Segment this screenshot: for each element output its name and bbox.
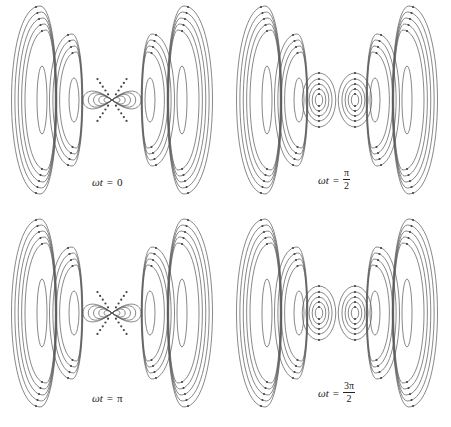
field-direction-arrow-icon <box>118 89 120 91</box>
field-direction-arrow-icon <box>120 112 122 114</box>
near-field-line <box>112 311 120 316</box>
field-direction-arrow-icon <box>185 399 187 401</box>
field-direction-arrow-icon <box>96 291 98 293</box>
field-line <box>250 243 280 383</box>
field-direction-arrow-icon <box>378 253 380 255</box>
field-direction-arrow-icon <box>260 6 262 8</box>
field-direction-arrow-icon <box>125 78 127 80</box>
field-line <box>145 78 155 122</box>
field-direction-arrow-icon <box>380 164 382 166</box>
field-direction-arrow-icon <box>409 231 411 233</box>
field-direction-arrow-icon <box>104 89 106 91</box>
field-line <box>367 52 389 148</box>
field-direction-arrow-icon <box>150 52 152 54</box>
field-line <box>69 78 79 122</box>
closed-field-loop <box>315 94 322 106</box>
field-line <box>69 291 79 335</box>
field-direction-arrow-icon <box>185 12 187 14</box>
equals-sign: = <box>333 387 339 399</box>
field-direction-arrow-icon <box>125 291 127 293</box>
field-direction-arrow-icon <box>68 371 70 373</box>
field-direction-arrow-icon <box>407 174 409 176</box>
field-direction-arrow-icon <box>261 12 263 14</box>
field-direction-arrow-icon <box>70 46 72 48</box>
field-direction-arrow-icon <box>378 371 380 373</box>
near-field-line <box>112 96 125 104</box>
field-direction-arrow-icon <box>107 93 109 95</box>
near-field-line <box>104 311 112 316</box>
omega-t-symbol: ωt <box>318 174 329 186</box>
field-direction-arrow-icon <box>354 83 356 85</box>
omega-t-symbol: ωt <box>92 176 103 188</box>
field-direction-arrow-icon <box>99 82 101 84</box>
field-direction-arrow-icon <box>354 105 356 107</box>
field-direction-arrow-icon <box>407 24 409 26</box>
field-direction-arrow-icon <box>266 30 268 32</box>
field-direction-arrow-icon <box>354 285 356 287</box>
field-direction-arrow-icon <box>70 365 72 367</box>
field-direction-arrow-icon <box>118 108 120 110</box>
field-direction-arrow-icon <box>261 186 263 188</box>
field-direction-arrow-icon <box>120 299 122 301</box>
field-direction-arrow-icon <box>150 146 152 148</box>
field-direction-arrow-icon <box>184 180 186 182</box>
field-direction-arrow-icon <box>68 253 70 255</box>
field-direction-arrow-icon <box>41 381 43 383</box>
field-direction-arrow-icon <box>99 329 101 331</box>
field-direction-arrow-icon <box>354 339 356 341</box>
field-direction-arrow-icon <box>41 168 43 170</box>
field-direction-arrow-icon <box>39 174 41 176</box>
field-direction-arrow-icon <box>318 83 320 85</box>
field-direction-arrow-icon <box>153 158 155 160</box>
field-direction-arrow-icon <box>181 168 183 170</box>
field-direction-arrow-icon <box>406 168 408 170</box>
field-line <box>60 265 82 361</box>
field-direction-arrow-icon <box>375 265 377 267</box>
field-line <box>402 279 412 347</box>
field-direction-arrow-icon <box>39 237 41 239</box>
field-direction-arrow-icon <box>375 52 377 54</box>
field-line <box>247 237 281 389</box>
field-direction-arrow-icon <box>123 116 125 118</box>
phase-value: 0 <box>117 176 123 188</box>
field-direction-arrow-icon <box>409 393 411 395</box>
field-direction-arrow-icon <box>39 24 41 26</box>
field-direction-arrow-icon <box>107 318 109 320</box>
field-direction-arrow-icon <box>102 112 104 114</box>
field-direction-arrow-icon <box>409 18 411 20</box>
field-direction-arrow-icon <box>318 339 320 341</box>
field-direction-arrow-icon <box>410 225 412 227</box>
field-direction-arrow-icon <box>354 291 356 293</box>
field-direction-arrow-icon <box>185 225 187 227</box>
field-direction-arrow-icon <box>70 152 72 154</box>
field-line <box>285 265 307 361</box>
field-line <box>402 66 412 134</box>
field-direction-arrow-icon <box>155 34 157 36</box>
field-direction-arrow-icon <box>264 237 266 239</box>
field-direction-arrow-icon <box>150 359 152 361</box>
field-direction-arrow-icon <box>295 46 297 48</box>
phase-label: ωt=3π2 <box>318 381 355 404</box>
field-direction-arrow-icon <box>318 88 320 90</box>
field-direction-arrow-icon <box>71 265 73 267</box>
field-direction-arrow-icon <box>318 78 320 80</box>
field-direction-arrow-icon <box>318 318 320 320</box>
field-direction-arrow-icon <box>36 12 38 14</box>
field-direction-arrow-icon <box>412 405 414 407</box>
field-direction-arrow-icon <box>155 377 157 379</box>
field-direction-arrow-icon <box>354 301 356 303</box>
field-direction-arrow-icon <box>153 371 155 373</box>
field-direction-arrow-icon <box>354 88 356 90</box>
field-direction-arrow-icon <box>295 152 297 154</box>
phase-value: π <box>117 392 123 404</box>
field-direction-arrow-icon <box>181 30 183 32</box>
closed-field-loop <box>348 89 362 111</box>
field-direction-arrow-icon <box>41 30 43 32</box>
closed-field-loop <box>351 307 358 319</box>
field-direction-arrow-icon <box>115 306 117 308</box>
fraction-denominator: 2 <box>347 393 352 404</box>
field-direction-arrow-icon <box>125 333 127 335</box>
field-line <box>262 279 272 347</box>
field-direction-arrow-icon <box>293 40 295 42</box>
field-direction-arrow-icon <box>263 393 265 395</box>
